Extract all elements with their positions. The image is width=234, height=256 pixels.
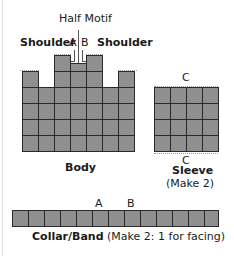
grid-cell <box>70 63 87 72</box>
grid-cell <box>70 71 87 88</box>
grid-cell <box>54 135 71 152</box>
grid-cell <box>102 87 119 104</box>
grid-cell <box>70 119 87 136</box>
grid-cell <box>118 87 135 104</box>
grid-cell <box>12 210 29 227</box>
collar-title: Collar/Band <box>32 230 104 243</box>
shoulder-left-label: Shoulder <box>20 37 76 49</box>
grid-cell <box>102 119 119 136</box>
grid-cell <box>170 103 187 120</box>
bracket-a-foot <box>71 61 75 62</box>
point-a-label: A <box>69 37 77 49</box>
grid-cell <box>22 103 39 120</box>
grid-cell <box>186 87 203 104</box>
collar-caption: Collar/Band (Make 2: 1 for facing) <box>32 231 225 243</box>
grid-cell <box>22 119 39 136</box>
motif-line-left <box>54 54 71 55</box>
grid-cell <box>170 119 187 136</box>
grid-cell <box>54 87 71 104</box>
grid-cell <box>154 103 171 120</box>
grid-cell <box>22 71 39 88</box>
grid-cell <box>86 87 103 104</box>
grid-cell <box>118 135 135 152</box>
grid-cell <box>38 87 55 104</box>
grid-cell <box>70 87 87 104</box>
point-b-label: B <box>81 37 89 49</box>
shoulder-line-right <box>118 70 137 71</box>
grid-cell <box>44 210 61 227</box>
grid-cell <box>70 135 87 152</box>
grid-cell <box>202 119 219 136</box>
grid-cell <box>86 71 103 88</box>
grid-cell <box>28 210 45 227</box>
grid-cell <box>118 71 135 88</box>
grid-cell <box>170 135 187 152</box>
bracket-a <box>74 50 75 61</box>
grid-cell <box>172 210 189 227</box>
half-motif-label: Half Motif <box>59 13 112 25</box>
shoulder-line-left <box>20 70 39 71</box>
grid-cell <box>54 119 71 136</box>
grid-cell <box>54 71 71 88</box>
grid-cell <box>156 210 173 227</box>
collar-b-label: B <box>127 198 135 210</box>
grid-cell <box>70 103 87 120</box>
grid-cell <box>54 103 71 120</box>
shoulder-right-label: Shoulder <box>97 37 153 49</box>
grid-cell <box>154 119 171 136</box>
grid-cell <box>154 87 171 104</box>
grid-cell <box>154 135 171 152</box>
grid-cell <box>202 135 219 152</box>
body-label: Body <box>65 162 96 174</box>
collar-make-label: (Make 2: 1 for facing) <box>107 230 225 243</box>
grid-cell <box>86 135 103 152</box>
grid-cell <box>86 55 103 72</box>
motif-line-right <box>86 54 103 55</box>
grid-cell <box>118 103 135 120</box>
grid-cell <box>76 210 93 227</box>
grid-cell <box>22 87 39 104</box>
grid-cell <box>108 210 125 227</box>
grid-cell <box>38 119 55 136</box>
grid-cell <box>186 103 203 120</box>
sleeve-top-c-label: C <box>182 72 190 84</box>
sleeve-label: Sleeve <box>172 165 213 177</box>
grid-cell <box>186 135 203 152</box>
grid-cell <box>202 103 219 120</box>
grid-cell <box>140 210 157 227</box>
center-line <box>78 30 79 63</box>
grid-cell <box>118 119 135 136</box>
bracket-b <box>82 50 83 61</box>
grid-cell <box>86 103 103 120</box>
grid-cell <box>60 210 77 227</box>
grid-cell <box>54 55 71 72</box>
grid-cell <box>124 210 141 227</box>
grid-cell <box>188 210 205 227</box>
collar-a-label: A <box>95 198 103 210</box>
grid-cell <box>202 87 219 104</box>
grid-cell <box>38 135 55 152</box>
grid-cell <box>170 87 187 104</box>
grid-cell <box>86 119 103 136</box>
grid-cell <box>102 103 119 120</box>
grid-cell <box>22 135 39 152</box>
page-edge-rule <box>2 0 3 256</box>
grid-cell <box>186 119 203 136</box>
grid-cell <box>92 210 109 227</box>
grid-cell <box>38 103 55 120</box>
grid-cell <box>102 135 119 152</box>
grid-cell <box>204 210 219 227</box>
sleeve-make-label: (Make 2) <box>166 178 214 190</box>
